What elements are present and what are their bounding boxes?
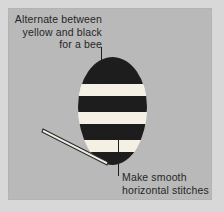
callout-bottom-line-1: Make smooth — [122, 171, 210, 184]
stripe-band-2 — [78, 84, 147, 96]
callout-top: Alternate between yellow and black for a… — [10, 13, 102, 51]
leader-line-top — [101, 47, 102, 81]
leader-line-bottom — [118, 137, 119, 176]
stripe-band-3 — [78, 96, 147, 112]
callout-bottom-line-2: horizontal stitches — [122, 184, 210, 197]
callout-top-line-2: yellow and black — [10, 26, 102, 39]
stripe-band-4 — [78, 112, 147, 124]
callout-top-line-3: for a bee — [10, 38, 102, 51]
callout-bottom: Make smooth horizontal stitches — [122, 171, 210, 196]
stripe-band-1 — [78, 57, 147, 84]
figure-root: Alternate between yellow and black for a… — [0, 0, 224, 212]
callout-top-line-1: Alternate between — [10, 13, 102, 26]
sewing-needle-icon — [40, 126, 112, 168]
